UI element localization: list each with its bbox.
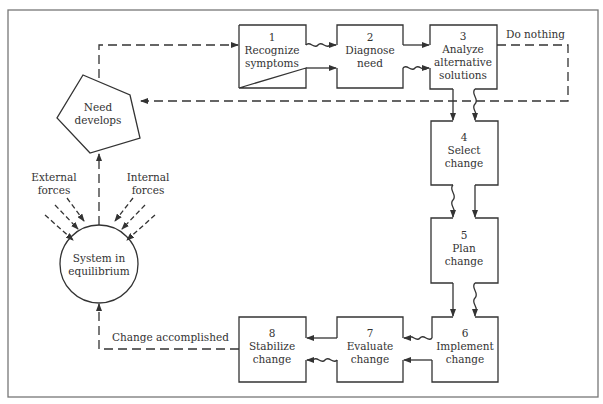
svg-text:Recognize: Recognize bbox=[245, 44, 300, 56]
step-1: 1 Recognize symptoms bbox=[245, 31, 300, 69]
system-label-1: System in bbox=[73, 252, 126, 264]
svg-text:8: 8 bbox=[269, 327, 276, 339]
internal-forces-label-2: forces bbox=[132, 184, 165, 196]
svg-text:solutions: solutions bbox=[439, 69, 487, 81]
svg-text:3: 3 bbox=[460, 30, 467, 42]
system-equilibrium-node bbox=[60, 225, 138, 303]
outer-frame bbox=[8, 10, 598, 397]
svg-text:Analyze: Analyze bbox=[441, 43, 484, 55]
step-2: 2 Diagnose need bbox=[345, 31, 394, 69]
need-label-2: develops bbox=[75, 114, 122, 126]
change-process-diagram: Need develops System in equilibrium Exte… bbox=[0, 0, 603, 404]
do-nothing-label: Do nothing bbox=[506, 28, 565, 40]
step-8: 8 Stabilize change bbox=[249, 327, 295, 365]
need-label-1: Need bbox=[84, 101, 113, 113]
svg-text:need: need bbox=[357, 57, 383, 69]
change-accomplished-label: Change accomplished bbox=[112, 331, 229, 343]
svg-text:change: change bbox=[445, 157, 484, 169]
svg-text:1: 1 bbox=[269, 31, 276, 43]
svg-text:change: change bbox=[351, 353, 390, 365]
system-label-2: equilibrium bbox=[68, 265, 130, 277]
svg-text:Select: Select bbox=[447, 144, 481, 156]
svg-text:4: 4 bbox=[461, 131, 468, 143]
svg-text:alternative: alternative bbox=[434, 56, 492, 68]
internal-forces-label-1: Internal bbox=[127, 171, 170, 183]
svg-text:Diagnose: Diagnose bbox=[345, 44, 394, 56]
step-7: 7 Evaluate change bbox=[347, 327, 394, 365]
step-6: 6 Implement change bbox=[436, 327, 494, 365]
step-3: 3 Analyze alternative solutions bbox=[434, 30, 492, 81]
step-5: 5 Plan change bbox=[445, 229, 484, 267]
svg-text:Plan: Plan bbox=[452, 242, 476, 254]
step-4: 4 Select change bbox=[445, 131, 484, 169]
svg-text:change: change bbox=[445, 255, 484, 267]
external-forces-label-2: forces bbox=[38, 184, 71, 196]
svg-text:6: 6 bbox=[462, 327, 469, 339]
svg-text:change: change bbox=[446, 353, 485, 365]
svg-text:change: change bbox=[253, 353, 292, 365]
svg-text:2: 2 bbox=[367, 31, 374, 43]
svg-text:symptoms: symptoms bbox=[245, 57, 299, 69]
svg-text:Implement: Implement bbox=[436, 340, 494, 352]
svg-text:5: 5 bbox=[461, 229, 468, 241]
svg-text:Stabilize: Stabilize bbox=[249, 340, 295, 352]
external-forces-label-1: External bbox=[31, 171, 77, 183]
svg-text:Evaluate: Evaluate bbox=[347, 340, 394, 352]
svg-text:7: 7 bbox=[367, 327, 374, 339]
